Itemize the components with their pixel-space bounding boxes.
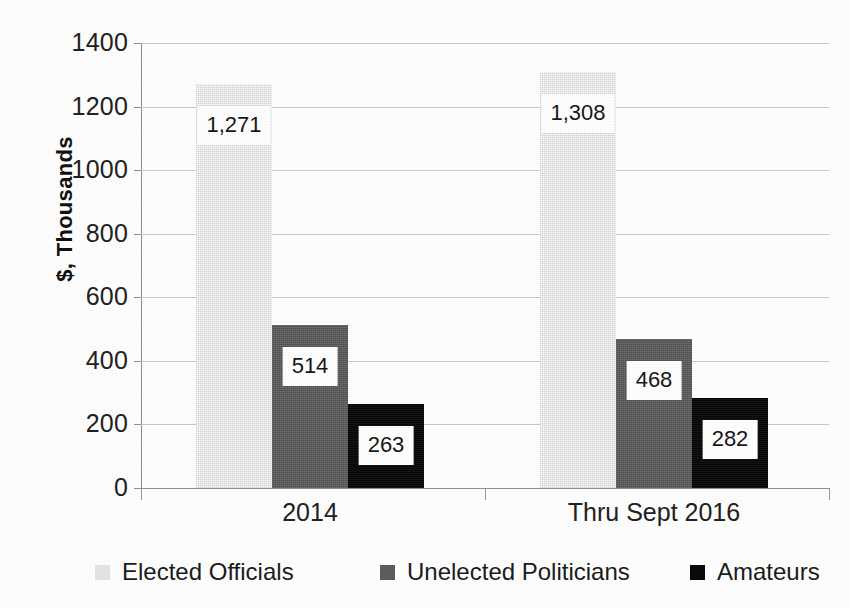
x-axis-category-1: 2014 [282,500,338,525]
plot-area: 1,2715142631,308468282 [141,43,829,488]
y-axis-label-1400: 1400 [48,30,128,55]
legend-item-3[interactable]: Amateurs [690,556,820,588]
y-tick-mark-1400 [134,43,141,44]
y-axis-label-600: 600 [48,284,128,309]
y-tick-mark-0 [134,488,141,489]
legend-label-1: Elected Officials [122,560,294,584]
legend-item-2[interactable]: Unelected Politicians [380,556,630,588]
bar-value-label-1-group-2: 1,308 [541,94,614,133]
bar-value-label-3-group-1: 263 [359,426,414,465]
bar-chart: $, Thousands 0200400600800100012001400 1… [0,0,850,608]
y-tick-mark-800 [134,234,141,235]
bar-1-group-2 [540,72,616,488]
x-axis-tick-2 [485,489,486,500]
legend-label-3: Amateurs [717,560,820,584]
y-tick-mark-600 [134,297,141,298]
x-axis-tick-3 [829,489,830,500]
y-axis-label-1000: 1000 [48,157,128,182]
bar-value-label-1-group-1: 1,271 [197,106,270,145]
chart-legend: Elected OfficialsUnelected PoliticiansAm… [95,556,795,590]
legend-item-1[interactable]: Elected Officials [95,556,294,588]
y-axis-label-0: 0 [48,475,128,500]
x-axis-tick-1 [141,489,142,500]
y-tick-mark-400 [134,361,141,362]
legend-swatch-unelected-politicians-icon [380,565,395,580]
y-tick-mark-1000 [134,170,141,171]
y-axis-label-1200: 1200 [48,94,128,119]
y-axis-label-400: 400 [48,348,128,373]
y-axis-label-800: 800 [48,221,128,246]
legend-swatch-amateurs-icon [690,565,705,580]
bar-value-label-2-group-1: 514 [283,347,338,386]
bar-value-label-3-group-2: 282 [703,420,758,459]
legend-swatch-elected-officials-icon [95,565,110,580]
bar-value-label-2-group-2: 468 [627,361,682,400]
x-axis-category-2: Thru Sept 2016 [568,500,740,525]
y-axis-label-200: 200 [48,411,128,436]
legend-label-2: Unelected Politicians [407,560,630,584]
y-tick-mark-200 [134,424,141,425]
y-tick-mark-1200 [134,107,141,108]
y-axis-tick-labels: 0200400600800100012001400 [48,0,128,608]
gridline-1400 [141,43,829,44]
